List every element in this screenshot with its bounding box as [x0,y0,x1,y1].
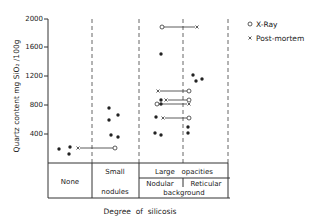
cross-icon [249,37,252,40]
y-ticks [44,19,48,134]
legend: X-Ray Post-mortem [248,20,304,43]
category-small-line2: nodules [101,188,129,196]
y-tick-1200: 1200 [25,72,43,80]
category-nodular-line2: background [163,189,204,197]
x-axis-label: Degree of silicosis [104,207,177,216]
y-tick-800: 800 [30,101,43,109]
y-tick-1600: 1600 [25,43,43,51]
legend-xray: X-Ray [256,20,278,29]
category-none: None [61,178,79,186]
linked-pairs [77,25,199,150]
category-large-opacities: Large opacities [155,168,213,176]
chart-canvas: 400 800 1200 1600 2000 Quartz content mg… [0,0,321,222]
y-tick-2000: 2000 [25,15,43,23]
category-nodular-line1: Nodular [146,180,174,188]
category-small-line1: Small [105,168,124,176]
y-axis-label: Quartz content mg SiO₂ /100g [12,39,21,152]
y-tick-400: 400 [30,130,43,138]
legend-postmortem: Post-mortem [256,34,304,43]
category-reticular: Reticular [191,180,222,188]
open-circle-icon [248,22,252,26]
